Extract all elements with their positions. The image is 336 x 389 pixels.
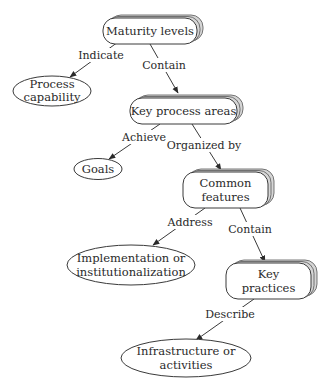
node-common-features: Common features bbox=[183, 169, 274, 208]
node-infrastructure: Infrastructure or activities bbox=[121, 339, 251, 377]
edge-describe: Describe bbox=[196, 299, 255, 340]
node-label-line2: practices bbox=[242, 281, 296, 295]
node-process-capability: Process capability bbox=[13, 76, 91, 106]
edge-label-indicate: Indicate bbox=[78, 49, 124, 62]
node-goals: Goals bbox=[74, 159, 122, 180]
edge-label-contain: Contain bbox=[142, 59, 186, 72]
edge-address: Address bbox=[153, 208, 213, 245]
edge-achieve: Achieve bbox=[109, 124, 166, 159]
node-label-line2: activities bbox=[160, 358, 213, 372]
node-label-line1: Infrastructure or bbox=[137, 344, 236, 358]
node-implementation: Implementation or institutionalization bbox=[67, 245, 195, 285]
node-label-line1: Implementation or bbox=[77, 251, 186, 265]
edge-label-contain: Contain bbox=[228, 223, 272, 236]
concept-map-svg: Indicate Contain Achieve Organized by Ad… bbox=[0, 0, 336, 389]
node-label: Key process areas bbox=[131, 104, 237, 118]
node-label-line1: Common bbox=[200, 176, 252, 190]
edge-label-achieve: Achieve bbox=[121, 131, 166, 144]
edge-label-address: Address bbox=[166, 216, 212, 229]
edge-contain-1: Contain bbox=[142, 44, 186, 93]
edge-organized-by: Organized by bbox=[167, 124, 242, 170]
node-maturity-levels: Maturity levels bbox=[103, 15, 203, 44]
node-label: Maturity levels bbox=[106, 24, 194, 38]
node-label-line2: capability bbox=[23, 90, 81, 104]
node-label-line1: Key bbox=[258, 267, 280, 281]
node-label-line1: Process bbox=[29, 77, 74, 91]
concept-map-canvas: Indicate Contain Achieve Organized by Ad… bbox=[0, 0, 336, 389]
node-label: Goals bbox=[82, 162, 115, 176]
node-key-practices: Key practices bbox=[226, 260, 317, 299]
edge-label-organized-by: Organized by bbox=[167, 139, 242, 152]
edge-label-describe: Describe bbox=[205, 308, 254, 321]
node-label-line2: institutionalization bbox=[76, 265, 186, 279]
node-key-process-areas: Key process areas bbox=[130, 95, 243, 124]
node-label-line2: features bbox=[201, 190, 249, 204]
edge-contain-2: Contain bbox=[228, 208, 272, 262]
edge-indicate: Indicate bbox=[70, 42, 124, 77]
